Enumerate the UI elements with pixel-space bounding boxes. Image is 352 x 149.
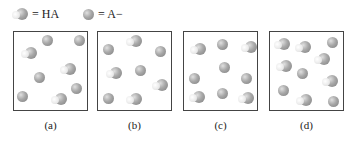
box-c-label: (c)	[183, 119, 258, 131]
a-minus-ion-icon	[327, 37, 338, 48]
legend-a-minus: = A−	[83, 7, 123, 22]
ha-molecule-icon	[21, 47, 37, 59]
ha-molecule-icon	[238, 92, 254, 104]
ha-molecule-icon	[152, 79, 168, 91]
box-d	[269, 31, 344, 111]
a-minus-ion-icon	[297, 68, 308, 79]
legend-a-minus-label: = A−	[98, 7, 123, 22]
ha-molecule-icon	[296, 94, 312, 106]
a-minus-ion-icon	[155, 46, 166, 57]
box-a	[13, 31, 88, 111]
a-minus-ion-icon	[219, 62, 230, 73]
legend: = HA = A−	[12, 6, 147, 22]
ha-molecule-icon	[60, 63, 76, 75]
a-minus-ion-icon	[103, 93, 114, 104]
legend-ha: = HA	[12, 7, 59, 22]
a-minus-ion-icon	[34, 72, 45, 83]
ha-molecule-icon	[322, 75, 338, 87]
a-minus-ion-icon	[71, 83, 82, 94]
a-minus-ion-icon	[135, 65, 146, 76]
ha-molecule-icon	[126, 35, 142, 47]
ha-molecule-icon	[295, 41, 311, 53]
ha-molecule-icon	[189, 91, 205, 103]
a-minus-ion-icon	[278, 85, 289, 96]
box-b	[97, 31, 172, 111]
ha-molecule-icon	[106, 67, 122, 79]
box-a-label: (a)	[13, 119, 88, 131]
ha-molecule-icon	[276, 60, 292, 72]
a-minus-ion-icon	[42, 35, 53, 46]
box-c	[183, 31, 258, 111]
a-minus-ion-icon	[83, 9, 94, 20]
ha-molecule-icon	[190, 43, 206, 55]
box-b-label: (b)	[97, 119, 172, 131]
a-minus-ion-icon	[241, 73, 252, 84]
ha-molecule-icon	[314, 53, 330, 65]
a-minus-ion-icon	[17, 91, 28, 102]
a-minus-ion-icon	[74, 35, 85, 46]
ha-molecule-icon	[126, 93, 142, 105]
a-minus-ion-icon	[328, 96, 339, 107]
ha-molecule-icon	[274, 38, 290, 50]
ha-molecule-icon	[51, 93, 67, 105]
legend-ha-label: = HA	[32, 7, 59, 22]
a-minus-ion-icon	[217, 88, 228, 99]
a-minus-ion-icon	[189, 73, 200, 84]
ha-molecule-icon	[12, 8, 28, 20]
box-d-label: (d)	[269, 119, 344, 131]
a-minus-ion-icon	[217, 39, 228, 50]
a-minus-ion-icon	[103, 44, 114, 55]
ha-molecule-icon	[241, 41, 257, 53]
